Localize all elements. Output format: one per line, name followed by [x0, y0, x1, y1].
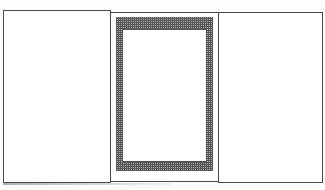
- trifold-sketch: [0, 0, 325, 190]
- frame-opening: [122, 29, 207, 162]
- left-panel: [3, 10, 111, 183]
- right-panel: [218, 12, 323, 183]
- shadow-line: [3, 183, 173, 185]
